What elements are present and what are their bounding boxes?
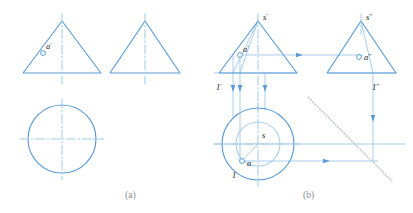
label-a-prime-panel-a: a′ — [46, 41, 52, 51]
point-a-prime-marker — [238, 53, 243, 58]
drawing-canvas: a′s′a′1′s″a″1″sa1 — [0, 0, 413, 213]
point-a-double-prime-marker — [357, 55, 362, 60]
label-s: s — [262, 130, 266, 140]
label-one-double-prime: 1″ — [372, 82, 379, 92]
arrow-down-2 — [238, 85, 243, 92]
caption-a: (a) — [125, 190, 136, 200]
label-s-double-prime: s″ — [366, 12, 372, 22]
generatrix-line-2 — [361, 21, 373, 73]
label-a-prime: a′ — [243, 44, 249, 54]
label-one: 1 — [232, 170, 236, 180]
label-a: a — [247, 158, 251, 168]
point-a-marker — [240, 159, 245, 164]
caption-b: (b) — [303, 190, 314, 200]
label-s-prime: s′ — [263, 12, 268, 22]
side-view-triangle-b — [327, 21, 396, 73]
arrow-right-lower — [323, 159, 330, 164]
arrow-down-4 — [371, 115, 376, 122]
arrow-right-upper — [296, 53, 303, 58]
point-a-prime-marker — [41, 51, 46, 56]
label-one-prime: 1′ — [216, 82, 222, 92]
miter-line-45 — [308, 97, 392, 181]
technical-drawing-figure: a′s′a′1′s″a″1″sa1 (a) (b) — [0, 0, 413, 213]
arrow-down-1 — [231, 85, 236, 92]
arrow-down-3 — [263, 85, 268, 92]
